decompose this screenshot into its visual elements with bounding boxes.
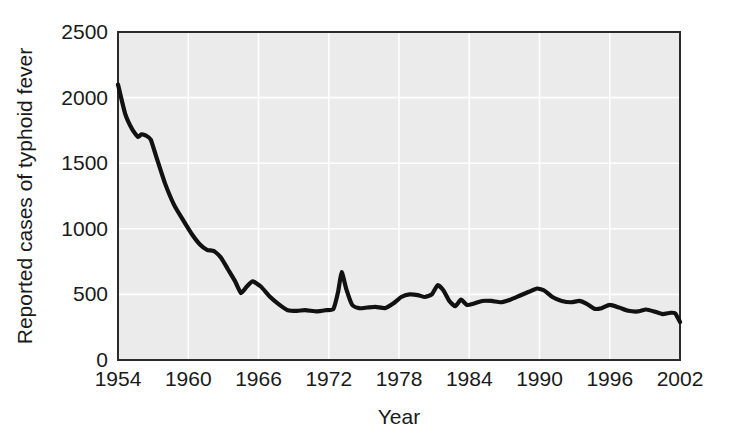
y-tick-1500: 1500 bbox=[61, 151, 108, 174]
x-tick-1966: 1966 bbox=[235, 367, 282, 390]
x-tick-1978: 1978 bbox=[376, 367, 423, 390]
x-tick-1954: 1954 bbox=[95, 367, 142, 390]
chart-container: 05001000150020002500 1954196019661972197… bbox=[0, 0, 735, 444]
x-tick-1984: 1984 bbox=[446, 367, 493, 390]
x-tick-1960: 1960 bbox=[165, 367, 212, 390]
typhoid-fever-line-chart: 05001000150020002500 1954196019661972197… bbox=[0, 0, 735, 444]
y-tick-1000: 1000 bbox=[61, 217, 108, 240]
y-tick-2500: 2500 bbox=[61, 20, 108, 43]
y-tick-500: 500 bbox=[73, 282, 108, 305]
x-tick-1996: 1996 bbox=[586, 367, 633, 390]
x-tick-2002: 2002 bbox=[657, 367, 704, 390]
x-tick-1972: 1972 bbox=[305, 367, 352, 390]
x-axis-tick-labels: 195419601966197219781984199019962002 bbox=[95, 367, 704, 390]
y-axis-title: Reported cases of typhoid fever bbox=[13, 48, 36, 345]
x-axis-title: Year bbox=[378, 405, 420, 428]
y-tick-2000: 2000 bbox=[61, 86, 108, 109]
x-tick-1990: 1990 bbox=[516, 367, 563, 390]
